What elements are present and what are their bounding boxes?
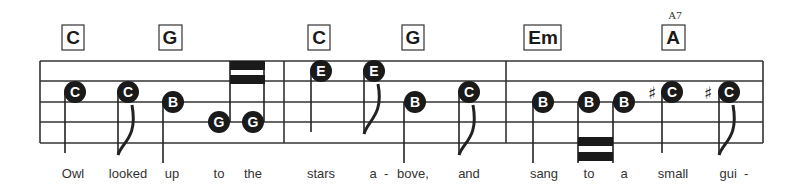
stems xyxy=(65,61,734,163)
svg-text:E: E xyxy=(369,63,378,79)
note: C xyxy=(718,81,740,103)
chord-3: C xyxy=(308,25,330,50)
chord-label: C xyxy=(312,27,326,48)
lyric: to xyxy=(584,166,595,181)
lyric: up xyxy=(165,166,179,181)
eighth-flag xyxy=(719,105,734,155)
svg-text:E: E xyxy=(316,63,325,79)
lyric: stars xyxy=(307,166,336,181)
lyric: a - xyxy=(370,166,389,181)
chord-label: C xyxy=(66,27,80,48)
eighth-flag xyxy=(459,105,474,155)
note: C xyxy=(64,81,86,103)
lyric: sang xyxy=(530,166,558,181)
eighth-flag xyxy=(364,84,379,134)
svg-text:G: G xyxy=(214,114,225,130)
note: B xyxy=(162,91,184,113)
chord-4: G xyxy=(402,25,424,50)
chord-label: G xyxy=(163,27,178,48)
lyric: the xyxy=(244,166,262,181)
chord-5: Em xyxy=(524,25,561,50)
lyric: a xyxy=(620,166,628,181)
chord-alt-label: A7 xyxy=(668,9,682,21)
lyric: gui - xyxy=(720,166,749,181)
note: C xyxy=(661,81,683,103)
svg-text:C: C xyxy=(70,84,80,100)
svg-text:B: B xyxy=(168,94,178,110)
lyrics: Owl looked up to the stars a - bove, and… xyxy=(62,166,749,181)
chord-2: G xyxy=(159,25,182,50)
note: B xyxy=(404,91,426,113)
svg-text:C: C xyxy=(123,84,133,100)
chord-label: Em xyxy=(528,27,558,48)
note: C xyxy=(117,81,139,103)
sheet-music: C G C G Em A7 A xyxy=(0,0,803,194)
sixteenth-beam xyxy=(230,75,265,84)
svg-text:G: G xyxy=(248,114,259,130)
svg-text:B: B xyxy=(410,94,420,110)
svg-text:C: C xyxy=(464,84,474,100)
note: B xyxy=(532,91,554,113)
lyric: bove, xyxy=(397,166,429,181)
lyric: to xyxy=(214,166,225,181)
sharp-icon: ♯ xyxy=(648,83,656,103)
chord-label: A xyxy=(666,27,680,48)
note: B xyxy=(578,91,600,113)
svg-text:C: C xyxy=(667,84,677,100)
note: C xyxy=(458,81,480,103)
lyric: small xyxy=(658,166,688,181)
lyric: looked xyxy=(109,166,147,181)
eighth-flag xyxy=(118,105,133,155)
note: B xyxy=(613,91,635,113)
chord-label: G xyxy=(406,27,421,48)
chord-6: A7 A xyxy=(662,9,685,50)
svg-text:C: C xyxy=(724,84,734,100)
note: G xyxy=(242,111,264,133)
lyric: Owl xyxy=(62,166,85,181)
note: E xyxy=(310,60,332,82)
note: E xyxy=(363,60,385,82)
sharp-icon: ♯ xyxy=(704,83,712,103)
svg-text:B: B xyxy=(538,94,548,110)
sixteenth-beam xyxy=(230,61,265,70)
sixteenth-beam xyxy=(578,152,613,161)
chord-1: C xyxy=(62,25,84,50)
sixteenth-beam xyxy=(578,137,613,146)
lyric: and xyxy=(458,166,480,181)
svg-text:B: B xyxy=(584,94,594,110)
note: G xyxy=(208,111,230,133)
svg-text:B: B xyxy=(619,94,629,110)
chord-row: C G C G Em A7 A xyxy=(62,9,685,50)
